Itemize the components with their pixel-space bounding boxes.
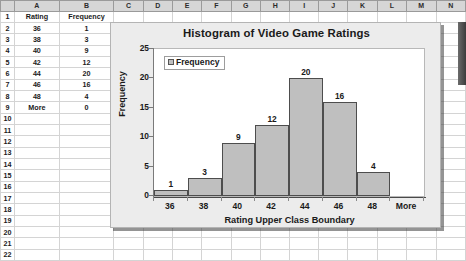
row-header-6[interactable]: 6 [1, 68, 15, 79]
bar-44[interactable] [289, 78, 323, 196]
cell-A4[interactable]: 40 [15, 45, 60, 56]
row-header-12[interactable]: 12 [1, 136, 15, 147]
bar-38[interactable] [188, 178, 222, 196]
cell-B5[interactable]: 12 [59, 56, 114, 67]
cell-G20[interactable] [231, 227, 260, 238]
cell-F1[interactable] [202, 11, 231, 22]
cell-B15[interactable] [59, 170, 114, 181]
row-header-5[interactable]: 5 [1, 56, 15, 67]
row-header-22[interactable]: 22 [1, 249, 15, 260]
cell-C1[interactable] [114, 11, 143, 22]
bar-36[interactable] [154, 190, 188, 196]
cell-L20[interactable] [377, 227, 406, 238]
cell-C22[interactable] [114, 249, 143, 260]
cell-N21[interactable] [436, 238, 466, 249]
row-header-15[interactable]: 15 [1, 170, 15, 181]
embedded-chart-object[interactable]: Histogram of Video Game Ratings 13912201… [110, 22, 441, 228]
cell-N22[interactable] [436, 249, 466, 260]
cell-J21[interactable] [319, 238, 348, 249]
bar-42[interactable] [255, 125, 289, 196]
cell-J20[interactable] [319, 227, 348, 238]
cell-A5[interactable]: 42 [15, 56, 60, 67]
cell-B21[interactable] [59, 238, 114, 249]
row-header-8[interactable]: 8 [1, 90, 15, 101]
cell-G1[interactable] [231, 11, 260, 22]
row-header-19[interactable]: 19 [1, 215, 15, 226]
cell-M1[interactable] [407, 11, 437, 22]
cell-F21[interactable] [202, 238, 231, 249]
row-header-17[interactable]: 17 [1, 193, 15, 204]
cell-H20[interactable] [261, 227, 290, 238]
cell-F20[interactable] [202, 227, 231, 238]
cell-A14[interactable] [15, 158, 60, 169]
cell-A13[interactable] [15, 147, 60, 158]
column-header-b[interactable]: B [59, 1, 114, 12]
cell-B11[interactable] [59, 124, 114, 135]
cell-B8[interactable]: 4 [59, 90, 114, 101]
column-header-a[interactable]: A [15, 1, 60, 12]
cell-J1[interactable] [319, 11, 348, 22]
cell-I21[interactable] [290, 238, 319, 249]
row-header-18[interactable]: 18 [1, 204, 15, 215]
cell-A21[interactable] [15, 238, 60, 249]
cell-A16[interactable] [15, 181, 60, 192]
cell-B12[interactable] [59, 136, 114, 147]
row-header-7[interactable]: 7 [1, 79, 15, 90]
column-header-i[interactable]: I [290, 1, 319, 12]
row-header-10[interactable]: 10 [1, 113, 15, 124]
cell-B20[interactable] [59, 227, 114, 238]
cell-G21[interactable] [231, 238, 260, 249]
bar-48[interactable] [357, 172, 391, 196]
bar-46[interactable] [323, 102, 357, 196]
cell-E21[interactable] [173, 238, 202, 249]
column-header-l[interactable]: L [377, 1, 406, 12]
cell-I1[interactable] [290, 11, 319, 22]
column-header-m[interactable]: M [407, 1, 437, 12]
cell-B13[interactable] [59, 147, 114, 158]
column-header-f[interactable]: F [202, 1, 231, 12]
cell-B18[interactable] [59, 204, 114, 215]
cell-B6[interactable]: 20 [59, 68, 114, 79]
cell-A22[interactable] [15, 249, 60, 260]
cell-B17[interactable] [59, 193, 114, 204]
cell-N1[interactable] [436, 11, 466, 22]
cell-A10[interactable] [15, 113, 60, 124]
row-header-21[interactable]: 21 [1, 238, 15, 249]
column-header-d[interactable]: D [143, 1, 172, 12]
cell-B3[interactable]: 3 [59, 34, 114, 45]
cell-C20[interactable] [114, 227, 143, 238]
cell-A6[interactable]: 44 [15, 68, 60, 79]
cell-M22[interactable] [407, 249, 437, 260]
cell-A9[interactable]: More [15, 102, 60, 113]
cell-B9[interactable]: 0 [59, 102, 114, 113]
cell-A11[interactable] [15, 124, 60, 135]
cell-B7[interactable]: 16 [59, 79, 114, 90]
cell-L1[interactable] [377, 11, 406, 22]
cell-K1[interactable] [348, 11, 377, 22]
cell-L21[interactable] [377, 238, 406, 249]
cell-A2[interactable]: 36 [15, 22, 60, 33]
cell-A3[interactable]: 38 [15, 34, 60, 45]
cell-B22[interactable] [59, 249, 114, 260]
column-header-e[interactable]: E [173, 1, 202, 12]
cell-K21[interactable] [348, 238, 377, 249]
select-all-corner[interactable] [1, 1, 15, 12]
row-header-11[interactable]: 11 [1, 124, 15, 135]
bar-40[interactable] [222, 143, 256, 196]
column-header-g[interactable]: G [231, 1, 260, 12]
cell-G22[interactable] [231, 249, 260, 260]
cell-A1[interactable]: Rating [15, 11, 60, 22]
cell-M21[interactable] [407, 238, 437, 249]
cell-D20[interactable] [143, 227, 172, 238]
cell-E1[interactable] [173, 11, 202, 22]
row-header-16[interactable]: 16 [1, 181, 15, 192]
cell-D21[interactable] [143, 238, 172, 249]
cell-D1[interactable] [143, 11, 172, 22]
row-header-20[interactable]: 20 [1, 227, 15, 238]
column-header-k[interactable]: K [348, 1, 377, 12]
cell-A12[interactable] [15, 136, 60, 147]
column-header-h[interactable]: H [261, 1, 290, 12]
cell-B19[interactable] [59, 215, 114, 226]
cell-M20[interactable] [407, 227, 437, 238]
row-header-2[interactable]: 2 [1, 22, 15, 33]
